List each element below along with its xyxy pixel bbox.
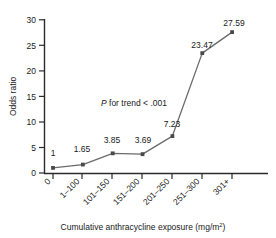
- x-tick-label: 151–200: [111, 176, 142, 207]
- y-axis-ticks: [39, 20, 45, 173]
- y-tick-label: 20: [27, 66, 37, 76]
- y-tick-label: 25: [27, 41, 37, 51]
- point-label: 27.59: [223, 18, 245, 28]
- data-point-marker: [81, 163, 85, 167]
- y-axis-title: Odds ratio: [8, 77, 18, 116]
- data-point-marker: [111, 151, 115, 155]
- x-tick-label: 0: [42, 176, 53, 187]
- y-tick-label: 0: [31, 168, 36, 178]
- point-label: 1: [51, 148, 56, 158]
- point-label: 23.47: [191, 40, 213, 50]
- data-point-marker: [51, 166, 55, 170]
- y-tick-label: 30: [27, 15, 37, 25]
- y-tick-label: 5: [31, 143, 36, 153]
- x-axis-title-tail: ): [223, 222, 226, 232]
- p-for-trend-rest: for trend < .001: [107, 98, 168, 108]
- chart-svg: 30 25 20 15 10 5 0 Odds ratio 0 1–100 10…: [0, 0, 276, 238]
- x-tick-label: 101–150: [81, 176, 112, 207]
- x-tick-label: 1–100: [58, 176, 82, 200]
- point-label: 7.23: [164, 119, 181, 129]
- data-point-marker: [171, 134, 175, 138]
- y-tick-label: 15: [27, 92, 37, 102]
- point-label: 3.69: [135, 135, 152, 145]
- x-axis-title: Cumulative anthracycline exposure (mg/m2…: [61, 222, 226, 232]
- x-axis-tick-labels: 0 1–100 101–150 151–200 201–250 251–300 …: [42, 176, 231, 207]
- point-value-labels: 1 1.65 3.85 3.69 7.23 23.47 27.59: [51, 18, 245, 158]
- point-label: 3.85: [104, 135, 121, 145]
- x-tick-label: 301+: [211, 176, 232, 197]
- odds-ratio-line-chart: 30 25 20 15 10 5 0 Odds ratio 0 1–100 10…: [0, 0, 276, 238]
- p-for-trend-annotation: P for trend < .001: [101, 98, 167, 108]
- data-point-marker: [141, 152, 145, 156]
- x-axis-ticks: [53, 174, 232, 180]
- data-point-marker: [200, 51, 204, 55]
- y-axis-tick-labels: 30 25 20 15 10 5 0: [27, 15, 37, 178]
- x-axis-title-main: Cumulative anthracycline exposure (mg/m: [61, 222, 220, 232]
- y-tick-label: 10: [27, 117, 37, 127]
- x-tick-label: 201–250: [141, 176, 172, 207]
- point-label: 1.65: [74, 144, 91, 154]
- data-point-marker: [230, 30, 234, 34]
- x-tick-label: 251–300: [171, 176, 202, 207]
